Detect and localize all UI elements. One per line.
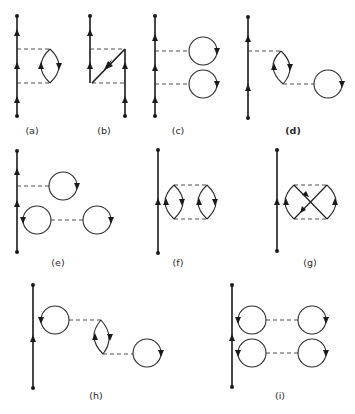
diagram-a: (a) <box>14 14 62 136</box>
diagram-c: (c) <box>152 14 220 136</box>
diagram-f: (f) <box>155 148 218 268</box>
label-f: (f) <box>173 257 184 268</box>
diagram-d: (d) <box>245 15 345 136</box>
label-h: (h) <box>89 390 102 401</box>
label-b: (b) <box>97 125 110 136</box>
label-d: (d) <box>285 125 300 136</box>
label-g: (g) <box>303 257 316 268</box>
diagram-h: (h) <box>30 283 164 401</box>
label-a: (a) <box>25 125 38 136</box>
diagram-g: (g) <box>274 148 338 268</box>
label-e: (e) <box>51 257 64 268</box>
diagram-b: (b) <box>87 14 128 136</box>
diagram-canvas: (a) (b) (c) <box>0 0 355 414</box>
diagram-e: (e) <box>14 149 114 268</box>
label-i: (i) <box>275 390 285 401</box>
diagram-i: (i) <box>229 283 329 401</box>
label-c: (c) <box>172 125 185 136</box>
